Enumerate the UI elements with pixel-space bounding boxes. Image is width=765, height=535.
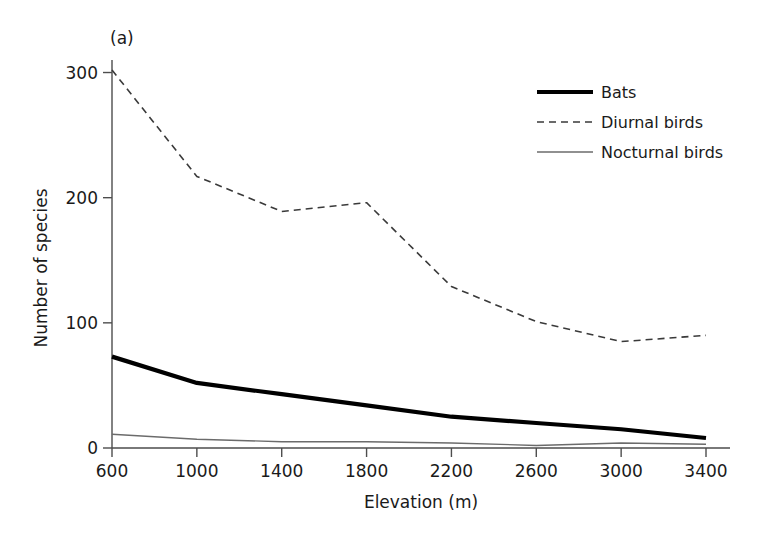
x-tick-label: 2200 xyxy=(430,461,473,481)
y-tick-label: 300 xyxy=(66,63,98,83)
figure-panel: (a) 0100200300 6001000140018002200260030… xyxy=(0,0,765,535)
x-tick-label: 1800 xyxy=(345,461,388,481)
x-tick-label: 3400 xyxy=(684,461,727,481)
x-tick-label: 600 xyxy=(96,461,128,481)
x-tick-label: 2600 xyxy=(515,461,558,481)
x-tick-label: 1000 xyxy=(175,461,218,481)
panel-label-group: (a) xyxy=(110,28,134,48)
series-line-diurnal-birds xyxy=(112,70,706,342)
series-line-bats xyxy=(112,357,706,438)
legend-label-bats: Bats xyxy=(601,83,636,102)
chart-canvas: (a) 0100200300 6001000140018002200260030… xyxy=(0,0,765,535)
y-tick-label: 100 xyxy=(66,313,98,333)
y-tick-label: 200 xyxy=(66,188,98,208)
legend-label-diurnal-birds: Diurnal birds xyxy=(601,113,703,132)
panel-label: (a) xyxy=(110,28,134,48)
y-axis-ticks: 0100200300 xyxy=(66,63,112,458)
legend-label-nocturnal-birds: Nocturnal birds xyxy=(601,143,723,162)
chart-legend: BatsDiurnal birdsNocturnal birds xyxy=(537,83,723,162)
x-tick-label: 3000 xyxy=(600,461,643,481)
series-line-nocturnal-birds xyxy=(112,434,706,445)
x-axis-title: Elevation (m) xyxy=(364,492,478,512)
y-tick-label: 0 xyxy=(87,438,98,458)
y-axis-title: Number of species xyxy=(31,188,51,347)
x-axis-ticks: 6001000140018002200260030003400 xyxy=(96,448,728,481)
x-tick-label: 1400 xyxy=(260,461,303,481)
